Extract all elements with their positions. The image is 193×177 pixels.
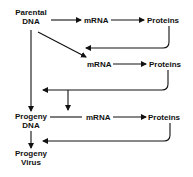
progeny-dna-line1: Progeny [12,112,50,121]
node-parental-dna: Parental DNA [12,8,50,26]
node-progeny-dna: Progeny DNA [12,112,50,130]
progeny-virus-line2: Virus [12,158,50,167]
arrow-proteins2-feedback [43,70,168,90]
arrow-proteins1-feedback [86,26,169,48]
progeny-dna-line2: DNA [12,121,50,130]
arrow-proteins3-feedback [43,123,170,141]
node-mrna-3: mRNA [86,113,110,122]
node-proteins-3: Proteins [148,113,180,122]
node-progeny-virus: Progeny Virus [12,149,50,167]
arrow-parental-to-mrna2 [38,32,86,57]
parental-dna-line2: DNA [12,17,50,26]
node-proteins-2: Proteins [149,60,181,69]
node-proteins-1: Proteins [147,16,179,25]
viral-replication-diagram: Parental DNA mRNA Proteins mRNA Proteins… [0,0,193,177]
progeny-virus-line1: Progeny [12,149,50,158]
node-mrna-1: mRNA [84,16,108,25]
node-mrna-2: mRNA [87,60,111,69]
parental-dna-line1: Parental [12,8,50,17]
